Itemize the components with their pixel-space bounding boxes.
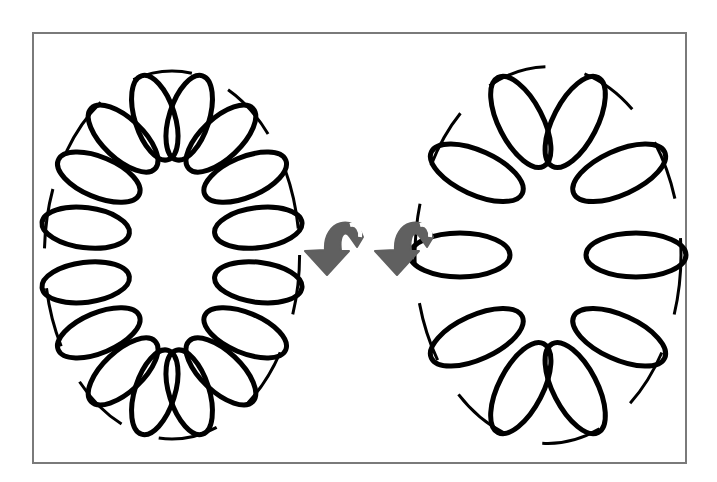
coil-outer-path [44,71,299,439]
coil-loop [422,297,531,379]
figure-canvas [0,0,717,482]
coil-loop [586,233,686,277]
curved-down-arrow-icon [375,223,433,275]
coil-loop [50,142,147,213]
coil-loop [50,297,147,368]
curved-down-arrow-icon [305,223,363,275]
tight-coil-diagram [40,70,305,441]
coil-loop [197,142,294,213]
coil-loop [40,202,132,253]
coil-loop [422,132,531,214]
coil-loop [565,297,674,379]
coil-loop [40,257,132,308]
coil-loop [212,257,304,308]
loose-coil-diagram [410,67,686,444]
coil-loop [212,202,304,253]
coil-loop [565,132,674,214]
